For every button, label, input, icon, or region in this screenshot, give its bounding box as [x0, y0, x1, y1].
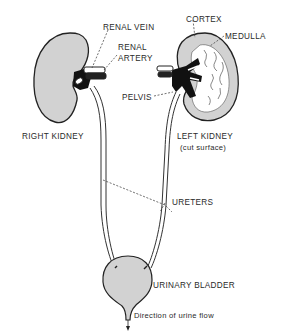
label-renal-artery-1: RENAL — [118, 43, 147, 52]
label-left-kidney: LEFT KIDNEY — [177, 132, 233, 141]
label-right-kidney: RIGHT KIDNEY — [22, 132, 84, 141]
urinary-system-diagram: RENAL VEIN RENAL ARTERY CORTEX MEDULLA P… — [0, 0, 282, 332]
urine-flow-arrow-icon — [126, 320, 130, 331]
label-renal-vein: RENAL VEIN — [103, 23, 154, 32]
label-ureters: URETERS — [172, 198, 213, 207]
label-urine-flow: Direction of urine flow — [134, 311, 214, 320]
label-pelvis: PELVIS — [122, 93, 152, 102]
label-cortex: CORTEX — [186, 15, 222, 24]
label-medulla: MEDULLA — [225, 32, 266, 41]
ureters — [90, 86, 180, 270]
label-renal-artery-2: ARTERY — [118, 54, 153, 63]
label-urinary-bladder: URINARY BLADDER — [153, 281, 235, 290]
label-cut-surface: (cut surface) — [180, 143, 226, 152]
